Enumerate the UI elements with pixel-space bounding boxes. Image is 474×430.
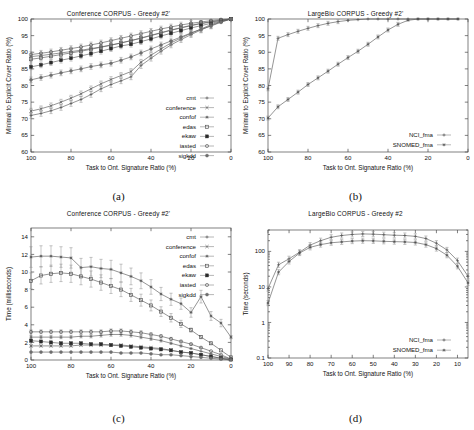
svg-text:85: 85	[21, 65, 28, 72]
svg-text:Task to Ont. Signature Ratio (: Task to Ont. Signature Ratio (%)	[323, 370, 413, 378]
svg-text:0: 0	[229, 154, 233, 161]
svg-text:0: 0	[229, 362, 233, 369]
svg-text:100: 100	[255, 15, 266, 22]
svg-text:95: 95	[258, 32, 265, 39]
svg-text:20: 20	[425, 154, 432, 161]
svg-text:95: 95	[21, 32, 28, 39]
svg-text:6: 6	[25, 303, 29, 310]
svg-text:40: 40	[148, 362, 155, 369]
svg-text:Minimal to Explicit Cover Rati: Minimal to Explicit Cover Ratio (%)	[242, 37, 250, 134]
svg-text:60: 60	[21, 148, 28, 155]
svg-text:edas: edas	[183, 123, 196, 130]
svg-text:Minimal to Explicit Cover Rati: Minimal to Explicit Cover Ratio (%)	[5, 37, 13, 134]
svg-text:Task to Ont. Signature Ratio (: Task to Ont. Signature Ratio (%)	[86, 164, 176, 172]
svg-text:60: 60	[258, 148, 265, 155]
svg-text:65: 65	[21, 131, 28, 138]
svg-text:confof: confof	[179, 252, 196, 259]
svg-text:80: 80	[305, 154, 312, 161]
svg-text:80: 80	[68, 154, 75, 161]
svg-text:10: 10	[21, 268, 28, 275]
svg-text:12: 12	[21, 251, 28, 258]
svg-text:0: 0	[466, 154, 470, 161]
svg-text:20: 20	[433, 360, 440, 367]
svg-text:60: 60	[108, 362, 115, 369]
plot-c: 10080604020002468101214Task to Ont. Sign…	[0, 204, 237, 400]
subcaption-d: (d)	[237, 412, 474, 424]
svg-text:60: 60	[349, 360, 356, 367]
svg-text:conference: conference	[166, 104, 197, 111]
panel-d: LargeBio CORPUS - Greedy #2 100908070605…	[237, 204, 474, 426]
svg-text:50: 50	[370, 360, 377, 367]
svg-text:Task to Ont. Signature Ratio (: Task to Ont. Signature Ratio (%)	[323, 164, 413, 172]
svg-text:80: 80	[68, 362, 75, 369]
svg-text:0.1: 0.1	[257, 354, 266, 361]
svg-text:cmt: cmt	[186, 233, 196, 240]
svg-text:8: 8	[25, 286, 29, 293]
plot-a: 1008060402006065707580859095100Task to O…	[0, 4, 237, 184]
svg-text:Time (seconds): Time (seconds)	[242, 272, 250, 315]
svg-text:60: 60	[345, 154, 352, 161]
subcaption-a: (a)	[0, 190, 237, 202]
svg-text:90: 90	[258, 48, 265, 55]
svg-text:NCI_fma: NCI_fma	[409, 131, 434, 138]
svg-text:70: 70	[258, 115, 265, 122]
subcaption-b: (b)	[237, 190, 474, 202]
svg-text:100: 100	[18, 15, 29, 22]
svg-text:SNOMED_fma: SNOMED_fma	[393, 346, 434, 353]
svg-text:10: 10	[258, 283, 265, 290]
figure-root: Conference CORPUS - Greedy #2' 100806040…	[0, 0, 474, 430]
svg-text:sigkdd: sigkdd	[178, 291, 196, 298]
panel-c: Conference CORPUS - Greedy #2' 100806040…	[0, 204, 237, 426]
svg-text:iasted: iasted	[180, 142, 196, 149]
svg-text:75: 75	[21, 98, 28, 105]
svg-text:conference: conference	[166, 243, 197, 250]
svg-text:70: 70	[328, 360, 335, 367]
svg-text:80: 80	[21, 82, 28, 89]
svg-text:90: 90	[21, 48, 28, 55]
plot-d: 1009080706050403020100.1110100Task to On…	[237, 204, 474, 400]
svg-text:Task to Ont. Signature Ratio (: Task to Ont. Signature Ratio (%)	[86, 372, 176, 380]
svg-text:65: 65	[258, 131, 265, 138]
subcaption-c: (c)	[0, 412, 237, 424]
svg-text:85: 85	[258, 65, 265, 72]
svg-text:100: 100	[255, 247, 266, 254]
svg-text:iasted: iasted	[180, 281, 196, 288]
svg-text:90: 90	[286, 360, 293, 367]
svg-text:edas: edas	[183, 262, 196, 269]
plot-b: 1008060402006065707580859095100Task to O…	[237, 4, 474, 184]
svg-text:ekaw: ekaw	[182, 271, 197, 278]
svg-text:60: 60	[108, 154, 115, 161]
svg-text:NCI_fma: NCI_fma	[409, 336, 434, 343]
svg-text:40: 40	[391, 360, 398, 367]
panel-b: LargeBio CORPUS - Greedy #2' 10080604020…	[237, 4, 474, 200]
svg-text:40: 40	[385, 154, 392, 161]
svg-text:confof: confof	[179, 113, 196, 120]
svg-text:14: 14	[21, 233, 28, 240]
svg-text:4: 4	[25, 321, 29, 328]
svg-text:75: 75	[258, 98, 265, 105]
svg-text:10: 10	[454, 360, 461, 367]
svg-text:ekaw: ekaw	[182, 132, 197, 139]
svg-text:Time (milliseconds): Time (milliseconds)	[5, 267, 13, 321]
svg-text:cmt: cmt	[186, 94, 196, 101]
svg-text:2: 2	[25, 339, 29, 346]
svg-text:80: 80	[307, 360, 314, 367]
svg-text:40: 40	[148, 154, 155, 161]
svg-text:70: 70	[21, 115, 28, 122]
svg-text:20: 20	[188, 362, 195, 369]
svg-text:sigkdd: sigkdd	[178, 152, 196, 159]
svg-text:SNOMED_fma: SNOMED_fma	[393, 141, 434, 148]
svg-text:30: 30	[412, 360, 419, 367]
svg-text:80: 80	[258, 82, 265, 89]
svg-text:1: 1	[262, 319, 266, 326]
panel-a: Conference CORPUS - Greedy #2' 100806040…	[0, 4, 237, 200]
